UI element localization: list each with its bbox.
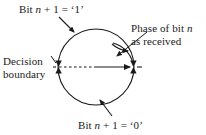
label-decision-line1: Decision: [3, 55, 43, 67]
label-bit-n-plus-1-equals-zero: Bit n + 1 = ‘0’: [78, 119, 143, 132]
label-bit-zero-suffix: + 1 = ‘0’: [100, 119, 143, 131]
label-phase-line1-variable: n: [187, 22, 193, 34]
label-bit-zero-prefix: Bit: [78, 119, 95, 131]
boundary-marker-right: [130, 61, 136, 74]
label-bit-one-suffix: + 1 = ‘1’: [41, 3, 84, 15]
label-decision-boundary: Decision boundary: [3, 55, 59, 80]
phase-decision-figure: Bit n + 1 = ‘1’ Phase of bit n as receiv…: [0, 0, 206, 135]
label-bit-one-prefix: Bit: [19, 3, 36, 15]
label-decision-line2: boundary: [3, 68, 45, 80]
leader-line-bit-one: [59, 17, 74, 32]
label-phase-line1-prefix: Phase of bit: [131, 22, 187, 34]
label-phase-of-bit-n-as-received: Phase of bit n as received: [131, 22, 205, 47]
label-phase-line2: as received: [131, 35, 181, 47]
label-bit-n-plus-1-equals-one: Bit n + 1 = ‘1’: [19, 3, 84, 16]
